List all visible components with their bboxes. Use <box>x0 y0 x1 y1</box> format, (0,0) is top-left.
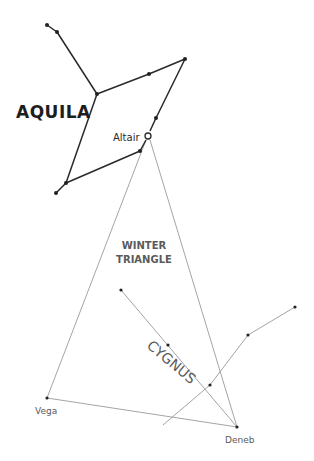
aquila-head-line <box>47 25 97 94</box>
vega-label: Vega <box>35 406 57 416</box>
star-dot <box>183 57 187 61</box>
star-dot <box>64 181 68 185</box>
constellation-diagram: AQUILA Altair WINTER TRIANGLE CYGNUS Veg… <box>0 0 314 461</box>
cygnus-label: CYGNUS <box>144 337 199 387</box>
star-dot <box>147 72 151 76</box>
star-dot <box>45 23 49 27</box>
star-dot <box>55 30 59 34</box>
star-dot <box>54 191 58 195</box>
winter-triangle-label-line1: WINTER <box>122 240 167 251</box>
star-dot <box>45 396 48 399</box>
triangle-edge-altair-vega <box>47 140 146 398</box>
star-dot <box>166 343 169 346</box>
star-dot <box>208 383 211 386</box>
altair-star-icon <box>145 133 151 139</box>
star-dot <box>138 149 142 153</box>
star-dot <box>235 425 238 428</box>
deneb-label: Deneb <box>225 435 255 445</box>
star-dot <box>293 305 296 308</box>
star-dot <box>95 92 99 96</box>
winter-triangle <box>47 140 237 427</box>
aquila-label: AQUILA <box>16 102 91 122</box>
triangle-edge-altair-deneb <box>150 140 237 427</box>
triangle-edge-vega-deneb <box>47 398 237 427</box>
star-dot <box>154 116 158 120</box>
aquila-body-line <box>97 59 185 131</box>
aquila-lower-line <box>56 140 146 193</box>
cygnus-figure <box>121 290 295 427</box>
altair-label: Altair <box>113 132 140 143</box>
star-dot <box>119 288 122 291</box>
winter-triangle-label-line2: TRIANGLE <box>116 254 172 265</box>
star-dot <box>246 333 249 336</box>
